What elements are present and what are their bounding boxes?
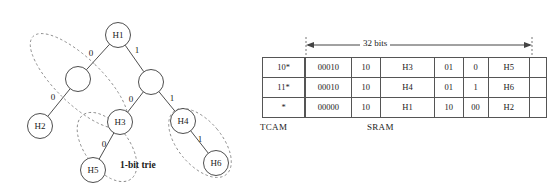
sram-cell: 00010 (306, 58, 352, 78)
sram-row: 0001010H3010H5 (306, 58, 547, 78)
tcam-table: 10*11** (262, 57, 305, 118)
sram-cell: 10 (351, 98, 380, 118)
trie-node-n-l (66, 67, 91, 92)
sram-cell: H3 (380, 58, 434, 78)
trie-diagram-panel: 0100101 H1H2H3H4H5H6 1-bit trie (0, 0, 255, 184)
node-circle (66, 67, 91, 92)
sram-cell (530, 78, 547, 98)
edge-bit-label-root-n-l: 0 (89, 48, 94, 58)
trie-caption: 1-bit trie (120, 160, 156, 170)
node-label: H2 (35, 121, 46, 131)
sram-cell: 0 (463, 58, 488, 78)
tcam-cell: 10* (263, 58, 305, 78)
sram-cell: 00010 (306, 78, 352, 98)
group-h3-h5 (65, 102, 148, 184)
trie-tcam-sram-figure: 0100101 H1H2H3H4H5H6 1-bit trie 32 bits … (0, 0, 547, 184)
node-label: H4 (178, 116, 189, 126)
trie-graph: 0100101 H1H2H3H4H5H6 (0, 0, 255, 184)
trie-node-h5: H5 (81, 158, 106, 183)
sram-cell: 10 (351, 58, 380, 78)
node-label: H5 (88, 165, 99, 175)
node-circle (139, 70, 164, 95)
width-label: 32 bits (360, 38, 390, 48)
trie-node-n-r (139, 70, 164, 95)
node-label: H3 (115, 117, 126, 127)
sram-cell (530, 98, 547, 118)
tcam-cell: 11* (263, 78, 305, 98)
sram-label: SRAM (367, 122, 394, 132)
trie-node-h4: H4 (171, 109, 196, 134)
sram-cell: H6 (488, 78, 529, 98)
sram-cell: 00 (463, 98, 488, 118)
trie-node-h3: H3 (108, 110, 133, 135)
sram-row: 0001010H4011H6 (306, 78, 547, 98)
sram-table: 0001010H3010H50001010H4011H60000010H1100… (305, 57, 547, 118)
tcam-row: * (263, 98, 305, 118)
sram-cell (530, 58, 547, 78)
sram-cell: 01 (435, 78, 463, 98)
edge-bit-label-n-r-h3: 0 (129, 94, 134, 104)
memory-tables-panel: 32 bits 10*11** TCAM 0001010H3010H500010… (255, 0, 547, 184)
trie-node-h2: H2 (28, 114, 53, 139)
sram-cell: 10 (435, 98, 463, 118)
edge-bit-label-h3-h5: 0 (102, 139, 107, 149)
sram-cell: H4 (380, 78, 434, 98)
width-dimension-arrow (305, 36, 533, 56)
sram-cell: H5 (488, 58, 529, 78)
dim-arrow-right-icon (524, 42, 532, 48)
sram-row: 0000010H11000H2 (306, 98, 547, 118)
sram-cell: 00000 (306, 98, 352, 118)
edge-bit-label-n-l-h2: 0 (51, 92, 56, 102)
node-label: H1 (113, 30, 124, 40)
tcam-row: 10* (263, 58, 305, 78)
edge-bit-label-h4-h6: 1 (198, 134, 203, 144)
node-label: H6 (211, 158, 222, 168)
sram-cell: 1 (463, 78, 488, 98)
sram-cell: H1 (380, 98, 434, 118)
tcam-row: 11* (263, 78, 305, 98)
edge-bit-label-n-r-h4: 1 (170, 93, 175, 103)
dim-arrow-left-icon (306, 42, 314, 48)
trie-node-h1: H1 (106, 23, 131, 48)
trie-node-h6: H6 (204, 151, 229, 176)
edge-bit-label-root-n-r: 1 (135, 45, 140, 55)
sram-cell: 01 (435, 58, 463, 78)
tcam-cell: * (263, 98, 305, 118)
sram-cell: 10 (351, 78, 380, 98)
sram-cell: H2 (488, 98, 529, 118)
tcam-label: TCAM (260, 122, 287, 132)
